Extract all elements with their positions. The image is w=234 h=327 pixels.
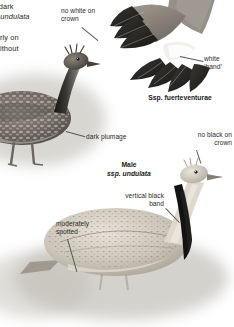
label-moderately-spotted: moderately spotted [56, 220, 112, 237]
label-white-hand: white ‘hand’ [204, 55, 234, 72]
body-text-line-2: ace undulata [0, 12, 70, 22]
caption-ssp-fuerteventurae: Ssp. fuerteventurae [128, 93, 232, 102]
caption-male-ssp-undulata: Male ssp. undulata [102, 160, 156, 178]
figure-spread-wing [108, 0, 234, 94]
body-text-line-5: n, without [0, 44, 70, 54]
label-no-black-on-crown: no black on crown [166, 131, 232, 148]
body-text-line-4: cularly on [0, 33, 70, 43]
body-text-block: ted dark ace undulata r to cularly on n,… [0, 2, 70, 54]
body-text-line-3: r to [0, 23, 70, 33]
field-guide-plate: ted dark ace undulata r to cularly on n,… [0, 0, 234, 327]
caption-male-line1: Male [102, 160, 156, 169]
label-vertical-black-band: vertical black band [96, 192, 164, 209]
caption-male-line2: ssp. undulata [102, 169, 156, 178]
label-dark-plumage: dark plumage [86, 133, 150, 141]
body-text-line-1: ted dark [0, 2, 70, 12]
label-no-white-on-crown: no white on crown [61, 7, 119, 24]
